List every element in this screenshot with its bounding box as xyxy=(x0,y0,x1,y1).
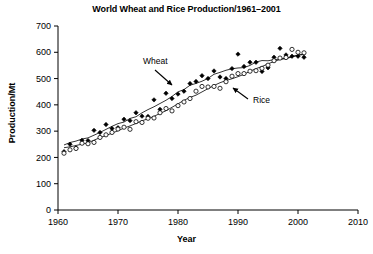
data-point-rice xyxy=(170,109,174,113)
data-point-wheat xyxy=(236,52,240,56)
data-point-rice xyxy=(248,69,252,73)
data-point-rice xyxy=(74,146,78,150)
data-point-wheat xyxy=(152,98,156,102)
axes xyxy=(54,26,358,214)
x-tick-label: 1990 xyxy=(228,217,248,227)
data-point-rice xyxy=(266,63,270,67)
y-tick-label: 600 xyxy=(36,47,51,57)
data-point-rice xyxy=(218,86,222,90)
data-point-rice xyxy=(122,125,126,129)
data-point-rice xyxy=(260,66,264,70)
data-point-wheat xyxy=(254,60,258,64)
data-point-rice xyxy=(80,141,84,145)
data-point-rice xyxy=(68,148,72,152)
data-point-rice xyxy=(158,111,162,115)
data-point-rice xyxy=(146,116,150,120)
data-point-rice xyxy=(164,106,168,110)
data-point-wheat xyxy=(98,130,102,134)
data-point-rice xyxy=(62,151,66,155)
tick-labels: 0100200300400500600700196019701980199020… xyxy=(36,21,368,227)
data-point-rice xyxy=(224,80,228,84)
y-tick-label: 100 xyxy=(36,179,51,189)
y-tick-label: 0 xyxy=(46,205,51,215)
data-point-wheat xyxy=(230,66,234,70)
data-point-wheat xyxy=(278,46,282,50)
y-tick-label: 300 xyxy=(36,126,51,136)
data-point-wheat xyxy=(104,122,108,126)
x-tick-label: 1980 xyxy=(168,217,188,227)
data-point-rice xyxy=(116,127,120,131)
x-tick-label: 2000 xyxy=(288,217,308,227)
data-point-wheat xyxy=(134,111,138,115)
data-point-rice xyxy=(92,140,96,144)
data-point-rice xyxy=(206,85,210,89)
data-point-wheat xyxy=(92,128,96,132)
data-point-wheat xyxy=(302,55,306,59)
data-point-wheat xyxy=(212,69,216,73)
data-point-rice xyxy=(296,50,300,54)
y-tick-label: 700 xyxy=(36,21,51,31)
data-point-wheat xyxy=(164,91,168,95)
data-point-wheat xyxy=(182,89,186,93)
data-point-wheat xyxy=(140,114,144,118)
plot-area: 0100200300400500600700196019701980199020… xyxy=(0,0,373,254)
annotation-label-wheat: Wheat xyxy=(143,56,168,66)
annotation-arrow-wheat xyxy=(155,70,172,85)
data-point-rice xyxy=(212,84,216,88)
x-tick-label: 1970 xyxy=(108,217,128,227)
data-point-rice xyxy=(242,71,246,75)
data-point-rice xyxy=(104,133,108,137)
data-point-rice xyxy=(182,100,186,104)
data-point-rice xyxy=(110,130,114,134)
data-point-rice xyxy=(128,127,132,131)
data-point-rice xyxy=(272,59,276,63)
data-point-rice xyxy=(140,120,144,124)
x-tick-label: 1960 xyxy=(48,217,68,227)
data-point-rice xyxy=(254,69,258,73)
y-tick-label: 500 xyxy=(36,74,51,84)
annotation-arrow-rice xyxy=(233,88,248,99)
data-point-rice xyxy=(302,51,306,55)
data-point-rice xyxy=(86,142,90,146)
data-point-rice xyxy=(134,120,138,124)
data-point-wheat xyxy=(176,92,180,96)
data-point-rice xyxy=(290,47,294,51)
data-point-rice xyxy=(188,96,192,100)
y-tick-label: 200 xyxy=(36,153,51,163)
annotation-label-rice: Rice xyxy=(253,95,270,105)
data-point-rice xyxy=(230,74,234,78)
chart-figure: World Wheat and Rice Production/1961–200… xyxy=(0,0,373,254)
data-point-rice xyxy=(278,56,282,60)
data-point-rice xyxy=(152,116,156,120)
y-tick-label: 400 xyxy=(36,100,51,110)
data-point-wheat xyxy=(200,73,204,77)
data-point-rice xyxy=(284,55,288,59)
data-point-rice xyxy=(194,89,198,93)
data-point-rice xyxy=(236,71,240,75)
x-tick-label: 2010 xyxy=(348,217,368,227)
data-point-rice xyxy=(98,135,102,139)
data-point-wheat xyxy=(248,60,252,64)
data-point-wheat xyxy=(290,54,294,58)
data-point-rice xyxy=(176,104,180,108)
data-point-wheat xyxy=(218,75,222,79)
data-point-rice xyxy=(200,84,204,88)
